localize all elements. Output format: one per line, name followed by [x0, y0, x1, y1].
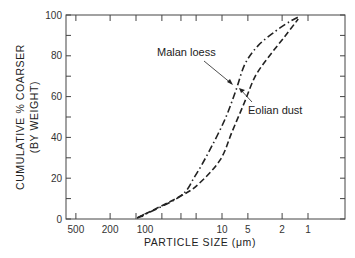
- x-tick-label: 5: [245, 224, 251, 235]
- arrowhead-icon: [227, 79, 233, 85]
- y-axis-title-line1: CUMULATIVE % COARSER: [14, 44, 26, 190]
- annotation-eolian-dust: Eolian dust: [248, 104, 302, 116]
- y-tick-label: 40: [51, 132, 63, 143]
- annotation-malan-loess: Malan loess: [157, 46, 216, 58]
- arrowhead-icon: [239, 88, 245, 93]
- x-tick-label: 100: [137, 224, 154, 235]
- y-axis-title-line2: (BY WEIGHT): [28, 81, 40, 153]
- x-axis-title: PARTICLE SIZE (μm): [144, 236, 256, 248]
- annotation-arrow: [204, 61, 232, 84]
- x-tick-label: 2: [279, 224, 285, 235]
- annotations: Malan loessEolian dust: [157, 46, 302, 116]
- particle-size-chart: 020406080100 50020010010521 Malan loessE…: [0, 0, 355, 258]
- x-tick-label: 1: [305, 224, 311, 235]
- x-tick-label: 200: [102, 224, 119, 235]
- x-tick-label: 10: [216, 224, 228, 235]
- x-tick-label: 500: [68, 224, 85, 235]
- y-axis-ticks: 020406080100: [45, 10, 345, 225]
- y-tick-label: 0: [56, 214, 62, 225]
- y-tick-label: 100: [45, 10, 62, 21]
- y-tick-label: 20: [51, 173, 63, 184]
- y-tick-label: 60: [51, 91, 63, 102]
- y-tick-label: 80: [51, 50, 63, 61]
